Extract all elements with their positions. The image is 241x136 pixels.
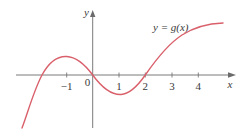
y-axis-label: y: [83, 6, 89, 18]
y-axis-arrow-icon: [90, 10, 95, 17]
function-graph: −1 0 1 2 3 4 x y y = g(x): [0, 0, 241, 136]
tick-label-4: 4: [196, 80, 202, 92]
tick-label-3: 3: [169, 80, 175, 92]
x-axis-label: x: [227, 78, 233, 90]
tick-label-neg1: −1: [61, 80, 73, 92]
function-label: y = g(x): [152, 21, 189, 34]
function-curve-g: [22, 23, 223, 128]
tick-label-2: 2: [143, 80, 149, 92]
tick-label-0: 0: [85, 76, 91, 88]
x-axis-arrow-icon: [228, 72, 236, 77]
tick-label-1: 1: [116, 80, 122, 92]
